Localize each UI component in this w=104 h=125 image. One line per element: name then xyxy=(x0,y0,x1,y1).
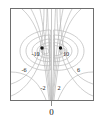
contour-label-positive-six: 6 xyxy=(77,66,80,73)
positive-pole-dot xyxy=(59,46,62,49)
contour-plot-figure: -10 10 -6 6 -2 2 0 xyxy=(0,0,104,125)
contour-label-negative-ten: -10 xyxy=(31,50,39,57)
contour-label-negative-six: -6 xyxy=(21,66,26,73)
contour-label-negative-two: -2 xyxy=(40,84,45,91)
axis-label-zero: 0 xyxy=(49,107,54,117)
plot-frame xyxy=(11,9,94,101)
contour-label-positive-two: 2 xyxy=(57,84,60,91)
negative-pole-dot xyxy=(40,46,43,49)
contour-plot-svg: -10 10 -6 6 -2 2 0 xyxy=(0,0,104,125)
contour-label-positive-ten: 10 xyxy=(63,50,69,57)
